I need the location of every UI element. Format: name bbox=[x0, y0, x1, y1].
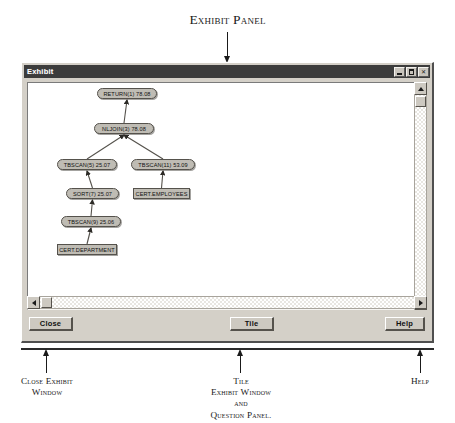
close-annotation-arrow bbox=[46, 355, 47, 373]
plan-node-label: RETURN(1) 78.08 bbox=[103, 91, 150, 97]
caption-line: and bbox=[170, 398, 312, 409]
tile-annotation-caption: Tile Exhibit Window and Question Panel. bbox=[170, 376, 312, 421]
close-annotation-caption: Close Exhibit Window bbox=[0, 376, 94, 398]
tile-annotation-arrow bbox=[240, 355, 241, 373]
plan-node-nljoin3[interactable]: NLJOIN(3) 78.08 bbox=[94, 123, 154, 134]
plan-node-label: TBSCAN(11) 53.09 bbox=[138, 162, 187, 168]
caption-line: Question Panel. bbox=[170, 410, 312, 421]
exhibit-window: Exhibit ✕ RETURN(1) 78.08NLJOIN(3) 78.08… bbox=[21, 62, 434, 343]
plan-edge-tbscan5-to-nljoin3 bbox=[87, 135, 124, 159]
scroll-up-button[interactable] bbox=[414, 82, 427, 95]
help-annotation-arrow bbox=[420, 355, 421, 373]
vertical-scroll-thumb[interactable] bbox=[415, 96, 426, 107]
maximize-button[interactable] bbox=[406, 67, 417, 77]
scroll-left-button[interactable] bbox=[27, 296, 40, 309]
horizontal-scroll-thumb[interactable] bbox=[41, 297, 52, 308]
plan-node-label: CERT.EMPLOYEES bbox=[136, 191, 188, 197]
help-button[interactable]: Help bbox=[385, 317, 425, 331]
access-plan-canvas[interactable]: RETURN(1) 78.08NLJOIN(3) 78.08TBSCAN(5) … bbox=[27, 82, 427, 310]
plan-graph: RETURN(1) 78.08NLJOIN(3) 78.08TBSCAN(5) … bbox=[28, 83, 426, 309]
minimize-button[interactable] bbox=[394, 67, 405, 77]
figure-title-label: Exhibit Panel bbox=[189, 12, 265, 27]
help-annotation-caption: Help bbox=[386, 376, 454, 387]
caption-line: Exhibit Window bbox=[170, 387, 312, 398]
figure-title: Exhibit Panel bbox=[0, 12, 455, 28]
plan-node-tbscan5[interactable]: TBSCAN(5) 25.07 bbox=[57, 159, 117, 170]
caption-line: Tile bbox=[170, 376, 312, 387]
window-title: Exhibit bbox=[27, 67, 393, 76]
plan-node-label: CERT.DEPARTMENT bbox=[59, 247, 115, 253]
window-title-bar[interactable]: Exhibit ✕ bbox=[24, 65, 430, 78]
plan-edge-certemp-to-tbscan11 bbox=[162, 171, 164, 188]
plan-edge-nljoin3-to-return1 bbox=[124, 100, 127, 123]
caption-line: Help bbox=[386, 376, 454, 387]
plan-node-tbscan11[interactable]: TBSCAN(11) 53.09 bbox=[131, 159, 195, 170]
scroll-right-button[interactable] bbox=[414, 296, 427, 309]
plan-edge-tbscan9-to-sort7 bbox=[91, 200, 93, 216]
window-button-strip: Close Tile Help bbox=[25, 314, 429, 338]
plan-node-sort7[interactable]: SORT(7) 25.07 bbox=[66, 188, 119, 199]
caption-line: Close Exhibit bbox=[0, 376, 94, 387]
plan-node-return1[interactable]: RETURN(1) 78.08 bbox=[97, 88, 157, 99]
plan-edge-certdept-to-tbscan9 bbox=[87, 228, 91, 244]
plan-node-label: TBSCAN(9) 25.06 bbox=[68, 219, 115, 225]
plan-node-label: SORT(7) 25.07 bbox=[73, 191, 112, 197]
plan-node-label: NLJOIN(3) 78.08 bbox=[102, 126, 146, 132]
close-button[interactable]: Close bbox=[29, 317, 73, 331]
annotation-rule bbox=[21, 348, 434, 350]
plan-node-certemp[interactable]: CERT.EMPLOYEES bbox=[133, 188, 190, 199]
caption-line: Window bbox=[0, 387, 94, 398]
tile-button[interactable]: Tile bbox=[230, 317, 274, 331]
horizontal-scrollbar[interactable] bbox=[27, 296, 427, 309]
close-icon[interactable]: ✕ bbox=[418, 67, 429, 77]
title-pointer-arrow bbox=[227, 32, 228, 57]
plan-node-label: TBSCAN(5) 25.07 bbox=[64, 162, 111, 168]
vertical-scrollbar[interactable] bbox=[414, 82, 427, 310]
plan-edge-tbscan11-to-nljoin3 bbox=[124, 135, 163, 159]
plan-edge-sort7-to-tbscan5 bbox=[87, 171, 93, 188]
plan-node-certdept[interactable]: CERT.DEPARTMENT bbox=[57, 244, 117, 255]
plan-node-tbscan9[interactable]: TBSCAN(9) 25.06 bbox=[61, 216, 121, 227]
